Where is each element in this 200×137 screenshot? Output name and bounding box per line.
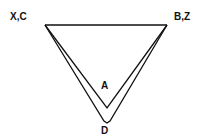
- triangle-diagram: X,C B,Z A D: [0, 0, 200, 137]
- label-bz: B,Z: [174, 11, 190, 22]
- inner-v-path: [45, 25, 167, 108]
- label-a: A: [101, 80, 108, 91]
- label-d: D: [101, 125, 108, 136]
- outer-v-path: [45, 25, 167, 123]
- label-xc: X,C: [10, 11, 27, 22]
